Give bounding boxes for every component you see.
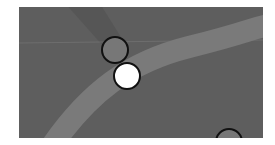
map-view[interactable] bbox=[19, 7, 263, 138]
marker-selected-white-icon[interactable] bbox=[114, 63, 140, 89]
marker-grey-icon[interactable] bbox=[102, 37, 128, 63]
map-canvas bbox=[19, 7, 263, 138]
